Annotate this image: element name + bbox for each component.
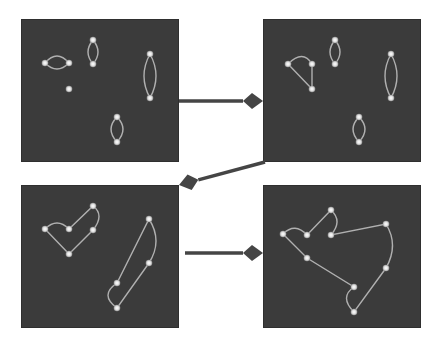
graph-node [114, 280, 121, 287]
cluster-edge [385, 54, 397, 98]
panel-step-3 [21, 185, 179, 328]
graph-node [114, 139, 121, 146]
graph-node [309, 61, 316, 68]
graph-node [356, 114, 363, 121]
graph-node [42, 60, 49, 67]
graph-node [114, 114, 121, 121]
graph-node [304, 232, 311, 239]
graph-step-2 [263, 19, 421, 162]
graph-node [66, 251, 73, 258]
graph-node [90, 61, 97, 68]
graph-node [42, 226, 49, 233]
graph-node [304, 255, 311, 262]
graph-node [388, 51, 395, 58]
panel-step-1 [21, 19, 179, 162]
graph-node [383, 265, 390, 272]
arrow-step-1-to-step-2 [179, 93, 263, 109]
arrowhead-icon [243, 93, 263, 109]
graph-node [146, 216, 153, 223]
panel-step-4 [263, 185, 421, 328]
graph-node [309, 86, 316, 93]
graph-node [328, 207, 335, 214]
cluster-edge [353, 117, 365, 142]
cluster-edge [283, 210, 393, 312]
arrowhead-icon [179, 174, 198, 189]
graph-node [351, 309, 358, 316]
graph-node [332, 61, 339, 68]
graph-node [356, 139, 363, 146]
arrow-step-2-to-step-3 [179, 162, 265, 190]
arrow-step-3-to-step-4 [185, 245, 263, 261]
arrowhead-icon [243, 245, 263, 261]
panel-step-2 [263, 19, 421, 162]
graph-node [332, 37, 339, 44]
graph-node [383, 221, 390, 228]
cluster-edge [330, 40, 340, 64]
graph-node [147, 51, 154, 58]
graph-node [388, 95, 395, 102]
graph-node [90, 37, 97, 44]
graph-node [147, 95, 154, 102]
graph-node [114, 305, 121, 312]
cluster-edge [288, 57, 312, 90]
graph-node [66, 86, 73, 93]
cluster-edge [88, 40, 98, 64]
graph-node [90, 203, 97, 210]
graph-node [351, 284, 358, 291]
graph-node [328, 232, 335, 239]
graph-step-1 [21, 19, 179, 162]
graph-step-3 [21, 185, 179, 328]
graph-node [90, 227, 97, 234]
graph-node [146, 260, 153, 267]
graph-node [66, 226, 73, 233]
graph-step-4 [263, 185, 421, 328]
cluster-edge [45, 56, 69, 69]
graph-node [66, 60, 73, 67]
graph-node [280, 231, 287, 238]
cluster-edge [111, 117, 123, 142]
graph-node [285, 61, 292, 68]
cluster-edge [144, 54, 156, 98]
